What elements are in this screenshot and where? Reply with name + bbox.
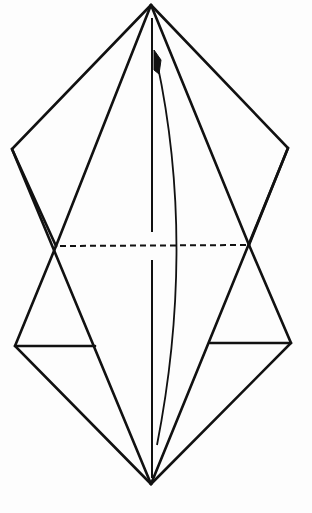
fold-arrow-curve	[157, 62, 177, 445]
lower-right-flap	[151, 245, 291, 484]
upper-right-edge	[151, 5, 288, 245]
origami-diagram	[0, 0, 312, 513]
lower-left-flap	[15, 246, 151, 484]
left-cross-down-right	[12, 149, 151, 484]
upper-left-edge	[12, 5, 151, 246]
fold-arrow-head-icon	[154, 50, 161, 74]
diagram-svg	[0, 0, 312, 513]
right-cross-down-left	[151, 148, 288, 484]
inner-diagonal-left-top	[56, 5, 151, 246]
inner-diagonal-right-top	[151, 5, 249, 245]
valley-fold-horizontal	[60, 245, 246, 246]
